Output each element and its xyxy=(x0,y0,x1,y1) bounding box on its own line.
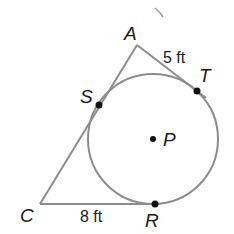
segment-ca xyxy=(40,45,137,204)
tangent-circle-diagram: A T S P C R 5 ft 8 ft xyxy=(0,0,234,234)
label-t: T xyxy=(199,65,212,86)
label-s: S xyxy=(80,86,93,107)
measure-cr: 8 ft xyxy=(80,208,103,225)
point-s xyxy=(96,102,103,109)
label-a: A xyxy=(123,23,137,44)
label-r: R xyxy=(145,210,159,231)
label-p: P xyxy=(163,129,176,150)
point-p xyxy=(150,136,156,142)
point-t xyxy=(194,88,201,95)
measure-at: 5 ft xyxy=(163,49,186,66)
stray-mark xyxy=(155,8,163,17)
point-r xyxy=(152,201,159,208)
label-c: C xyxy=(20,205,34,226)
